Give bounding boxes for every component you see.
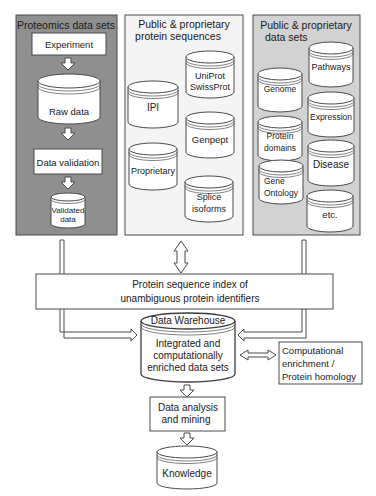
proteomics-panel: Proteomics data sets Experiment Raw data… [16,15,117,235]
datasets-panel-title: data sets [265,31,308,43]
proteomics-data-warehouse-diagram: Proteomics data sets Experiment Raw data… [0,0,376,496]
etc-label: etc. [322,209,337,220]
data-warehouse-cylinder: Data Warehouse Integrated and computatio… [141,313,235,382]
gene-ontology-label: Ontology [264,188,299,198]
swissprot-label: SwissProt [190,82,231,92]
data-analysis-box: Data analysis and mining [150,397,225,431]
down-arrow-icon [180,433,194,445]
experiment-box: Experiment [32,33,106,55]
knowledge-cylinder: Knowledge [157,446,217,489]
analysis-label: and mining [162,414,211,425]
data-validation-box: Data validation [34,149,102,174]
expression-cylinder: Expression [308,92,354,137]
data-warehouse-title: Data Warehouse [151,315,226,326]
validated-data-label: Validated [52,206,85,215]
horizontal-bidirectional-arrow-icon [240,350,276,360]
bidirectional-arrow-icon [174,241,188,273]
enrichment-label: Protein homology [282,371,356,382]
sequences-panel-title: Public & proprietary [138,18,230,30]
gene-ontology-cylinder: Gene Ontology [259,160,303,204]
warehouse-description: computationally [153,350,222,361]
disease-cylinder: Disease [308,140,354,186]
etc-cylinder: etc. [307,190,353,232]
computational-enrichment-box: Computational enrichment / Protein homol… [279,342,362,384]
sequences-panel-title: protein sequences [135,30,221,42]
protein-domains-label: Protein [267,131,294,141]
splice-isoforms-cylinder: Splice isoforms [185,176,233,222]
knowledge-label: Knowledge [162,468,212,479]
ipi-label: IPI [147,102,159,113]
pathways-label: Pathways [311,62,351,72]
ipi-cylinder: IPI [128,81,178,128]
warehouse-description: enriched data sets [147,362,229,373]
proprietary-label: Proprietary [131,166,176,176]
uniprot-swissprot-cylinder: UniProt SwissProt [186,51,234,98]
experiment-label: Experiment [45,39,93,50]
analysis-label: Data analysis [158,402,218,413]
protein-domains-cylinder: Protein domains [258,116,302,161]
index-label: Protein sequence index of [132,279,248,290]
pathways-cylinder: Pathways [309,42,353,87]
validated-data-label: data [60,215,76,224]
splice-label: Splice [197,192,222,202]
raw-data-label: Raw data [49,106,90,117]
index-label: unambiguous protein identifiers [121,293,260,304]
proteomics-panel-title: Proteomics data sets [17,19,115,31]
uniprot-label: UniProt [195,71,226,81]
raw-data-cylinder: Raw data [38,74,100,124]
enrichment-label: Computational [282,345,343,356]
datasets-panel-title: Public & proprietary [260,19,352,31]
gene-ontology-label: Gene [264,176,285,186]
protein-domains-label: domains [264,143,296,153]
genpept-cylinder: Genpept [186,112,234,158]
genpept-label: Genpept [192,134,229,145]
isoforms-label: isoforms [192,204,227,214]
genome-cylinder: Genome [258,68,302,112]
warehouse-description: Integrated and [156,338,221,349]
validated-data-cylinder: Validated data [51,193,85,228]
enrichment-label: enrichment / [282,358,335,369]
expression-label: Expression [310,112,352,122]
data-sets-panel: Public & proprietary data sets Pathways … [253,15,360,235]
disease-label: Disease [313,159,350,170]
protein-sequences-panel: Public & proprietary protein sequences U… [125,15,243,235]
down-arrow-icon [180,385,194,397]
protein-sequence-index-box: Protein sequence index of unambiguous pr… [36,274,333,309]
data-validation-label: Data validation [37,157,100,168]
proprietary-cylinder: Proprietary [129,143,177,190]
genome-label: Genome [264,84,297,94]
